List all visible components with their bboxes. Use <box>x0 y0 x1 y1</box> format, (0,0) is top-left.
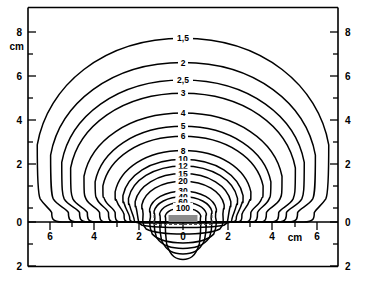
left-tick-label: 2 <box>16 159 22 170</box>
bottom-axis-unit: cm <box>288 232 303 243</box>
left-axis-labels: 8 cm 6 4 2 0 2 <box>10 27 25 272</box>
bottom-tick-label: 6 <box>47 231 53 242</box>
contour-level-label: 2 <box>181 58 186 68</box>
right-tick-label: 4 <box>345 115 351 126</box>
right-tick-label: 2 <box>345 159 351 170</box>
isodose-contour-figure: 8 cm 6 4 2 0 2 8 6 4 2 0 2 6 4 2 0 2 4 c… <box>0 0 367 284</box>
contour-level-label: 1,5 <box>177 33 189 43</box>
bottom-tick-label: 2 <box>225 231 231 242</box>
bottom-tick-label: 4 <box>91 231 97 242</box>
contour-level-label: 20 <box>178 176 188 186</box>
contour-level-label: 2,5 <box>177 75 189 85</box>
bottom-axis-labels: 6 4 2 0 2 4 cm 6 <box>47 231 320 243</box>
contour-plot-canvas: 8 cm 6 4 2 0 2 8 6 4 2 0 2 6 4 2 0 2 4 c… <box>0 0 367 284</box>
right-axis-labels: 8 6 4 2 0 2 <box>345 27 351 272</box>
contour-level-label: 3 <box>181 88 186 98</box>
right-tick-label: 0 <box>345 217 351 228</box>
bottom-tick-label: 0 <box>180 231 186 242</box>
bottom-tick-label: 4 <box>269 231 275 242</box>
right-tick-label: 6 <box>345 71 351 82</box>
contour-level-label: 5 <box>181 121 186 131</box>
right-axis-ticks <box>330 32 338 266</box>
right-tick-label: 8 <box>345 27 351 38</box>
right-tick-label: 2 <box>345 261 351 272</box>
contour-level-label: 6 <box>181 131 186 141</box>
left-axis-unit: cm <box>10 41 25 52</box>
left-tick-label: 0 <box>16 217 22 228</box>
left-tick-label: 8 <box>16 27 22 38</box>
contour-level-label: 100 <box>176 203 190 213</box>
bottom-tick-label: 6 <box>314 231 320 242</box>
left-tick-label: 2 <box>16 261 22 272</box>
left-tick-label: 4 <box>16 115 22 126</box>
left-tick-label: 6 <box>16 71 22 82</box>
contour-level-label: 4 <box>181 108 186 118</box>
contour-label-group: 1,522,53456810121520304060100 <box>173 33 193 212</box>
bottom-tick-label: 2 <box>136 231 142 242</box>
left-axis-ticks <box>28 32 36 266</box>
